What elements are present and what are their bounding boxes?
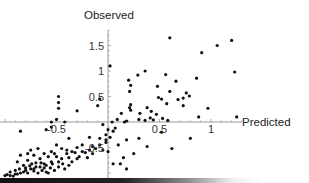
data-point bbox=[57, 95, 60, 98]
data-point bbox=[114, 127, 117, 130]
data-point bbox=[98, 137, 101, 140]
data-point bbox=[104, 141, 107, 144]
data-point bbox=[57, 160, 60, 163]
data-point bbox=[174, 80, 177, 83]
data-point bbox=[32, 167, 35, 170]
data-point bbox=[14, 169, 17, 172]
data-point bbox=[230, 39, 233, 42]
data-point bbox=[22, 170, 25, 173]
data-point bbox=[136, 73, 139, 76]
data-point bbox=[26, 171, 29, 174]
y-tick-label: -0.5 bbox=[85, 142, 104, 154]
data-point bbox=[43, 152, 46, 155]
data-point bbox=[150, 110, 153, 113]
data-point bbox=[137, 118, 140, 121]
data-point bbox=[73, 151, 76, 154]
data-point bbox=[60, 157, 63, 160]
data-point bbox=[38, 157, 41, 160]
data-point bbox=[157, 96, 160, 99]
y-axis-label: Observed bbox=[84, 9, 134, 21]
data-point bbox=[182, 96, 185, 99]
data-point bbox=[55, 155, 58, 158]
data-point bbox=[26, 152, 29, 155]
data-point bbox=[149, 116, 152, 119]
data-point bbox=[233, 70, 236, 73]
data-point bbox=[216, 44, 219, 47]
data-point bbox=[19, 154, 22, 157]
data-point bbox=[63, 167, 66, 170]
data-point bbox=[5, 173, 8, 176]
data-point bbox=[143, 119, 146, 122]
data-point bbox=[165, 102, 168, 105]
data-point bbox=[43, 166, 46, 169]
data-point bbox=[70, 150, 73, 153]
data-point bbox=[76, 146, 79, 149]
data-point bbox=[138, 112, 141, 115]
data-point bbox=[170, 147, 173, 150]
data-point bbox=[120, 112, 123, 115]
data-point bbox=[78, 155, 81, 158]
data-point bbox=[182, 104, 185, 107]
data-point bbox=[156, 85, 159, 88]
data-point bbox=[53, 169, 56, 172]
data-point bbox=[29, 148, 32, 151]
data-point bbox=[57, 165, 60, 168]
axes bbox=[0, 30, 242, 180]
data-point bbox=[81, 150, 84, 153]
data-point bbox=[49, 166, 52, 169]
data-point bbox=[132, 152, 135, 155]
data-point bbox=[57, 107, 60, 110]
data-point bbox=[16, 160, 19, 163]
data-point bbox=[40, 169, 43, 172]
data-point bbox=[67, 164, 70, 167]
data-point bbox=[123, 120, 126, 123]
data-point bbox=[26, 159, 29, 162]
data-point bbox=[61, 162, 64, 165]
data-point bbox=[55, 143, 58, 146]
data-point bbox=[195, 77, 198, 80]
x-tick-label: 1 bbox=[208, 123, 214, 135]
data-point bbox=[70, 160, 73, 163]
data-point bbox=[108, 64, 111, 67]
data-point bbox=[146, 106, 149, 109]
data-point bbox=[76, 109, 79, 112]
data-point bbox=[125, 138, 128, 141]
data-point bbox=[36, 171, 39, 174]
data-point bbox=[185, 91, 188, 94]
data-point bbox=[55, 118, 58, 121]
scatter-plot: -0.50.51-0.50.511.5 Observed Predicted bbox=[0, 0, 309, 183]
data-point bbox=[111, 120, 114, 123]
data-point bbox=[81, 143, 84, 146]
data-point bbox=[166, 119, 169, 122]
x-tick-label: 0.5 bbox=[152, 123, 167, 135]
data-point bbox=[155, 113, 158, 116]
data-point bbox=[197, 115, 200, 118]
data-point bbox=[127, 79, 130, 82]
data-point bbox=[152, 118, 155, 121]
data-point bbox=[122, 156, 125, 159]
data-point bbox=[125, 167, 128, 170]
data-point bbox=[43, 162, 46, 165]
y-tick-label: 1.5 bbox=[89, 40, 104, 52]
data-point bbox=[67, 137, 70, 140]
data-point bbox=[29, 167, 32, 170]
data-point bbox=[129, 109, 132, 112]
data-point bbox=[116, 118, 119, 121]
data-point bbox=[22, 164, 25, 167]
data-point bbox=[108, 136, 111, 139]
data-point bbox=[19, 130, 22, 133]
data-point bbox=[67, 156, 70, 159]
data-point bbox=[57, 101, 60, 104]
data-point bbox=[50, 150, 53, 153]
data-point bbox=[168, 36, 171, 39]
data-point bbox=[65, 148, 68, 151]
data-point bbox=[34, 161, 37, 164]
x-axis-label: Predicted bbox=[242, 116, 291, 128]
data-point bbox=[96, 104, 99, 107]
data-point bbox=[189, 137, 192, 140]
data-point bbox=[32, 154, 35, 157]
data-point bbox=[146, 145, 149, 148]
data-points bbox=[3, 36, 238, 177]
data-point bbox=[200, 51, 203, 54]
data-point bbox=[129, 84, 132, 87]
